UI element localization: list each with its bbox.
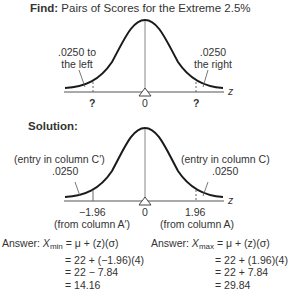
solution-label: Solution: <box>28 120 78 132</box>
answer-max: Answer: Xmax = μ + (z)(σ) = 22 + (1.96)(… <box>151 237 288 291</box>
min-formula: = μ + (z)(σ) <box>66 237 119 249</box>
min-step-2: = 22 + (−1.96)(4) <box>2 254 144 267</box>
right-source: (from column A) <box>160 218 234 230</box>
answer-max-prefix: Answer: <box>151 237 189 249</box>
right-area-value: .0250 <box>188 46 238 58</box>
z-axis-label: z <box>228 85 233 97</box>
answer-min: Answer: Xmin = μ + (z)(σ) = 22 + (−1.96)… <box>2 237 144 291</box>
left-area-value: .0250 to <box>52 46 102 58</box>
right-area-value: .0250 <box>181 165 270 177</box>
left-column-note: (entry in column C′) <box>14 153 105 165</box>
left-tail-label: .0250 to the left <box>52 46 102 70</box>
find-title-text: Pairs of Scores for the Extreme 2.5% <box>61 2 250 14</box>
min-step-3: = 22 − 7.84 <box>2 266 144 279</box>
left-area-desc: the left <box>52 58 102 70</box>
max-sub: max <box>199 242 214 251</box>
min-sub: min <box>50 242 63 251</box>
right-area-desc: the right <box>188 58 238 70</box>
solution-right-note: (entry in column C) .0250 <box>181 153 270 177</box>
left-unknown-tick: ? <box>89 97 95 109</box>
x-var: X <box>43 237 50 249</box>
left-z-value: −1.96 <box>79 206 106 218</box>
right-unknown-tick: ? <box>193 97 199 109</box>
right-column-note: (entry in column C) <box>181 153 270 165</box>
left-source: (from column A′) <box>54 218 130 230</box>
right-z-value: 1.96 <box>185 206 205 218</box>
max-step-3: = 22 + 7.84 <box>151 266 288 279</box>
answer-min-prefix: Answer: <box>2 237 40 249</box>
min-result: = 14.16 <box>2 279 144 292</box>
z-axis-label-2: z <box>228 194 233 206</box>
find-label: Find: <box>30 2 58 14</box>
center-tick: 0 <box>142 97 148 109</box>
right-tail-label: .0250 the right <box>188 46 238 70</box>
max-step-2: = 22 + (1.96)(4) <box>151 254 288 267</box>
max-result: = 29.84 <box>151 279 288 292</box>
x-var: X <box>192 237 199 249</box>
find-title: Find: Pairs of Scores for the Extreme 2.… <box>30 2 251 14</box>
max-formula: = μ + (z)(σ) <box>217 237 270 249</box>
solution-left-note: (entry in column C′) .0250 <box>14 153 105 177</box>
left-area-value: .0250 <box>14 165 105 177</box>
center-tick-2: 0 <box>142 206 148 218</box>
